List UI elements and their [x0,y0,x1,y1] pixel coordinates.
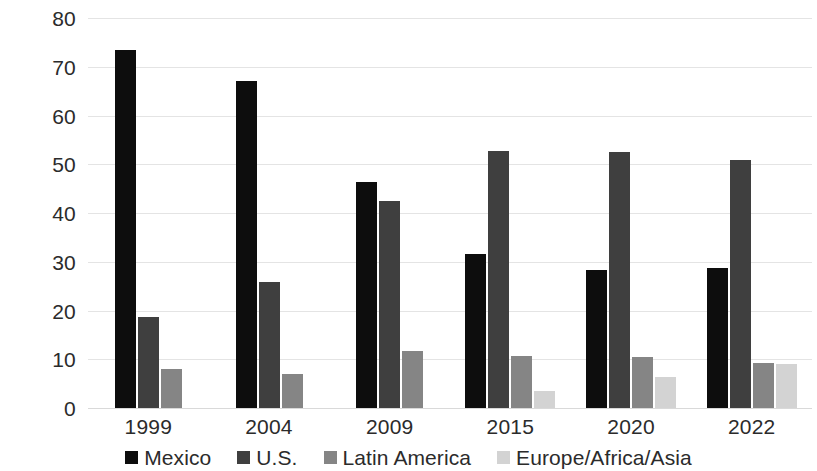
bar[interactable] [534,391,555,408]
y-axis-tick-label: 10 [52,349,76,370]
bar-group [450,18,571,408]
bar[interactable] [236,81,257,408]
bar-group-bars [571,18,692,408]
legend-swatch-us [237,451,250,464]
legend-item-label: U.S. [256,447,297,468]
bar[interactable] [609,152,630,408]
axis-baseline [88,408,812,409]
x-axis-tick-label: 2020 [571,412,692,442]
bar-group-bars [88,18,209,408]
bar[interactable] [356,182,377,408]
bar-group [691,18,812,408]
bar[interactable] [488,151,509,408]
bar-chart: 01020304050607080 1999200420092015202020… [0,0,817,471]
bar[interactable] [379,201,400,408]
legend-swatch-mexico [125,451,138,464]
x-axis-tick-label: 2022 [691,412,812,442]
legend-swatch-latin-america [324,451,337,464]
legend-swatch-europe-africa-asia [497,451,510,464]
bar[interactable] [776,364,797,408]
y-axis-tick-label: 30 [52,251,76,272]
y-axis-tick-label: 40 [52,203,76,224]
y-axis-tick-label: 70 [52,56,76,77]
bar-group [88,18,209,408]
y-axis-tick-label: 60 [52,105,76,126]
y-axis-tick-label: 50 [52,154,76,175]
bar[interactable] [115,50,136,408]
bar[interactable] [161,369,182,408]
y-axis-tick-label: 20 [52,300,76,321]
bar-group-bars [329,18,450,408]
bar[interactable] [730,160,751,408]
y-axis: 01020304050607080 [0,18,76,408]
bar-group-bars [691,18,812,408]
bar-group [329,18,450,408]
legend-item[interactable]: Europe/Africa/Asia [497,447,692,468]
bar[interactable] [632,357,653,408]
legend-item-label: Europe/Africa/Asia [516,447,692,468]
bar[interactable] [138,317,159,408]
bar[interactable] [259,282,280,408]
bar-group [209,18,330,408]
bar[interactable] [655,377,676,408]
y-axis-tick-label: 0 [64,398,76,419]
x-axis-tick-label: 1999 [88,412,209,442]
bar[interactable] [707,268,728,408]
legend-item[interactable]: U.S. [237,447,297,468]
legend-item[interactable]: Latin America [324,447,472,468]
bar[interactable] [753,363,774,408]
bar[interactable] [282,374,303,408]
bar-group-bars [209,18,330,408]
bar-groups [88,18,812,408]
x-axis: 199920042009201520202022 [88,412,812,442]
x-axis-tick-label: 2015 [450,412,571,442]
x-axis-tick-label: 2009 [329,412,450,442]
bar-group [571,18,692,408]
bar[interactable] [402,351,423,408]
bar[interactable] [511,356,532,408]
legend-item-label: Mexico [144,447,211,468]
legend-item[interactable]: Mexico [125,447,211,468]
chart-legend: MexicoU.S.Latin AmericaEurope/Africa/Asi… [0,444,817,471]
bar[interactable] [586,270,607,408]
y-axis-tick-label: 80 [52,8,76,29]
bar-group-bars [450,18,571,408]
x-axis-tick-label: 2004 [209,412,330,442]
legend-item-label: Latin America [343,447,472,468]
bar[interactable] [465,254,486,408]
